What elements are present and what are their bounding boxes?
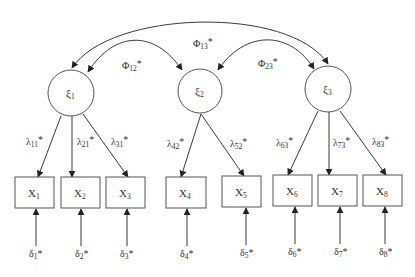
latent-xi2: ξ2 — [178, 69, 222, 113]
label-phi13: Φ13* — [193, 36, 213, 51]
observed-x1: X1 — [15, 177, 54, 208]
arrow-lambda11 — [38, 116, 61, 177]
label-delta8: δ8* — [379, 246, 392, 259]
label-lambda11: λ11* — [26, 134, 43, 149]
error-arrows — [36, 207, 385, 246]
observed-x8: X8 — [363, 175, 402, 206]
label-lambda52: λ52* — [230, 136, 247, 151]
observed-x4: X4 — [166, 177, 206, 208]
label-delta3: δ3* — [120, 248, 133, 261]
label-lambda42: λ42* — [167, 136, 184, 151]
label-phi12: Φ12* — [122, 58, 142, 73]
latent-xi3: ξ3 — [305, 66, 351, 112]
label-delta7: δ7* — [334, 246, 347, 259]
label-delta5: δ5* — [240, 247, 253, 260]
sem-path-diagram: Φ13* Φ12* Φ23* λ11* λ21* λ31* λ42* λ52* … — [0, 0, 415, 277]
label-delta2: δ2* — [75, 248, 88, 261]
observed-x7: X7 — [318, 175, 357, 206]
label-lambda73: λ73* — [333, 135, 350, 150]
observed-x6: X6 — [273, 175, 312, 206]
observed-x2: X2 — [61, 177, 100, 208]
observed-x5: X5 — [222, 176, 261, 207]
label-lambda31: λ31* — [111, 134, 128, 149]
label-lambda83: λ83* — [372, 134, 389, 149]
label-delta4: δ4* — [180, 248, 193, 261]
label-lambda21: λ21* — [77, 134, 94, 149]
observed-x3: X3 — [106, 177, 145, 208]
label-delta6: δ6* — [288, 246, 301, 259]
label-phi23: Φ23* — [258, 56, 278, 71]
latent-xi1: ξ1 — [48, 70, 94, 116]
label-delta1: δ1* — [29, 248, 42, 261]
label-lambda63: λ63* — [276, 135, 293, 150]
